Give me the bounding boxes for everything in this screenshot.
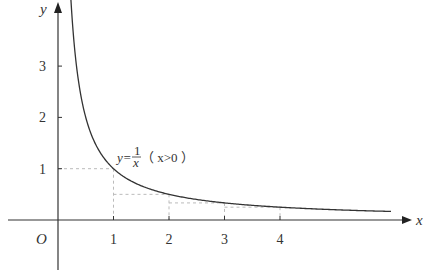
y-tick-label-3: 3 <box>39 59 46 74</box>
y-axis-arrow-icon <box>54 2 62 13</box>
curve-label-prefix: y= <box>115 150 132 165</box>
reciprocal-function-chart: 1234123 x y O y= 1 x （ x>0 ） <box>0 0 423 279</box>
axes <box>8 2 412 270</box>
y-tick-label-2: 2 <box>39 110 46 125</box>
x-tick-label-4: 4 <box>277 232 284 247</box>
origin-label: O <box>36 231 47 247</box>
curve-label-denominator: x <box>132 155 139 170</box>
curve-y-equals-1-over-x <box>65 0 391 211</box>
curve-label-condition: （ x>0 ） <box>141 150 194 165</box>
x-tick-label-1: 1 <box>110 232 117 247</box>
y-axis-label: y <box>38 1 47 17</box>
x-axis-label: x <box>415 212 423 228</box>
x-tick-label-3: 3 <box>221 232 228 247</box>
y-tick-label-1: 1 <box>39 162 46 177</box>
curve-label: y= 1 x （ x>0 ） <box>115 143 194 170</box>
chart-container: 1234123 x y O y= 1 x （ x>0 ） <box>0 0 423 279</box>
x-axis-arrow-icon <box>402 216 412 224</box>
x-tick-label-2: 2 <box>166 232 173 247</box>
